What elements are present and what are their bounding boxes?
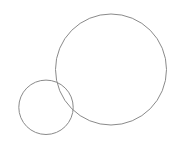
diagram-canvas [0, 0, 180, 149]
